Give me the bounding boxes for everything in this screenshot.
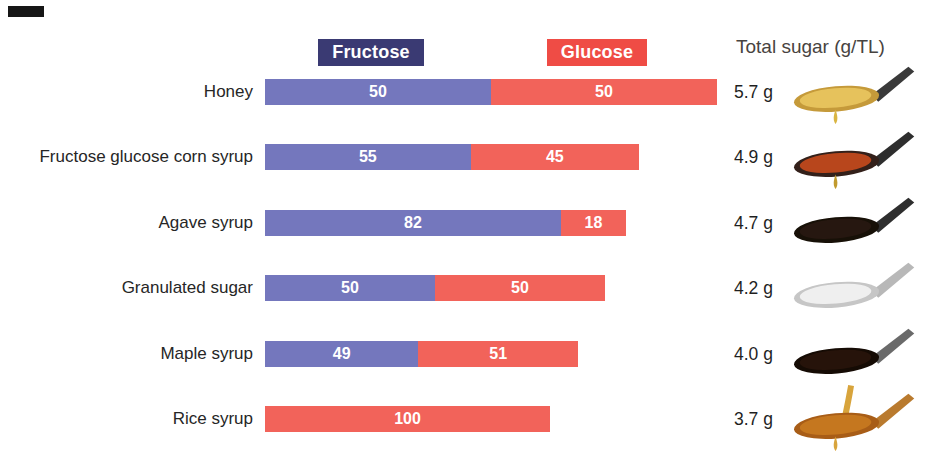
honey-spoon-icon	[786, 58, 922, 126]
glucose-value: 50	[595, 83, 613, 101]
chart-row-rice-syrup: Rice syrup 100 3.7 g	[0, 406, 936, 432]
chart-row-corn-syrup: Fructose glucose corn syrup 55 45 4.9 g	[0, 144, 936, 170]
category-label: Honey	[0, 79, 253, 105]
glucose-value: 18	[585, 214, 603, 232]
category-label: Granulated sugar	[0, 275, 253, 301]
category-label: Fructose glucose corn syrup	[0, 144, 253, 170]
stacked-bar: 55 45	[265, 144, 639, 170]
glucose-bar-segment: 50	[491, 79, 717, 105]
glucose-value: 50	[511, 279, 529, 297]
glucose-bar-segment: 51	[418, 341, 578, 367]
category-label: Maple syrup	[0, 341, 253, 367]
glucose-bar-segment: 45	[471, 144, 639, 170]
total-sugar-value: 4.0 g	[734, 341, 773, 367]
chart-row-granulated-sugar: Granulated sugar 50 50 4.2 g	[0, 275, 936, 301]
fructose-bar-segment: 82	[265, 210, 561, 236]
scan-ink-mark	[8, 6, 44, 17]
chart-row-honey: Honey 50 50 5.7 g	[0, 79, 936, 105]
category-label: Agave syrup	[0, 210, 253, 236]
rice-syrup-spoon-icon	[786, 385, 922, 453]
total-sugar-value: 3.7 g	[734, 406, 773, 432]
fructose-value: 49	[333, 345, 351, 363]
fructose-value: 82	[404, 214, 422, 232]
legend-glucose-label: Glucose	[561, 42, 633, 63]
total-sugar-value: 5.7 g	[734, 79, 773, 105]
chart-row-maple-syrup: Maple syrup 49 51 4.0 g	[0, 341, 936, 367]
glucose-value: 100	[394, 410, 421, 428]
total-sugar-value: 4.7 g	[734, 210, 773, 236]
legend-fructose-label: Fructose	[332, 42, 410, 63]
glucose-value: 45	[546, 148, 564, 166]
agave-syrup-spoon-icon	[786, 189, 922, 257]
total-sugar-value: 4.2 g	[734, 275, 773, 301]
corn-syrup-spoon-icon	[786, 123, 922, 191]
fructose-bar-segment: 50	[265, 275, 435, 301]
granulated-sugar-spoon-icon	[786, 254, 922, 322]
fructose-value: 50	[341, 279, 359, 297]
stacked-bar: 50 50	[265, 275, 605, 301]
stacked-bar: 49 51	[265, 341, 578, 367]
fructose-bar-segment: 55	[265, 144, 471, 170]
fructose-value: 55	[359, 148, 377, 166]
stacked-bar: 100	[265, 406, 550, 432]
fructose-bar-segment: 49	[265, 341, 418, 367]
fructose-bar-segment: 50	[265, 79, 491, 105]
glucose-value: 51	[489, 345, 507, 363]
legend-glucose: Glucose	[547, 39, 647, 66]
stacked-bar: 50 50	[265, 79, 717, 105]
chart-row-agave: Agave syrup 82 18 4.7 g	[0, 210, 936, 236]
fructose-value: 50	[369, 83, 387, 101]
maple-syrup-spoon-icon	[786, 320, 922, 388]
total-sugar-column-header: Total sugar (g/TL)	[736, 36, 885, 58]
legend-fructose: Fructose	[318, 39, 424, 66]
glucose-bar-segment: 18	[561, 210, 626, 236]
glucose-bar-segment: 100	[265, 406, 550, 432]
category-label: Rice syrup	[0, 406, 253, 432]
stacked-bar: 82 18	[265, 210, 626, 236]
total-sugar-value: 4.9 g	[734, 144, 773, 170]
sugar-composition-chart: Fructose Glucose Total sugar (g/TL) Hone…	[0, 0, 936, 463]
glucose-bar-segment: 50	[435, 275, 605, 301]
